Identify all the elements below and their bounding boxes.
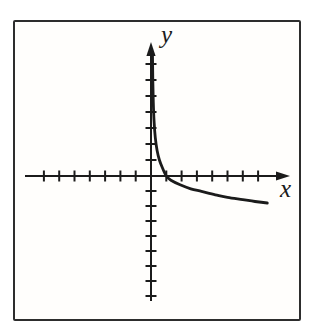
y-axis-label: y [161,22,172,47]
function-curve [153,56,268,203]
y-axis-arrow-icon [146,42,155,56]
x-axis-label: x [280,176,291,201]
axes-plot [0,0,320,331]
figure-canvas: y x [0,0,320,331]
